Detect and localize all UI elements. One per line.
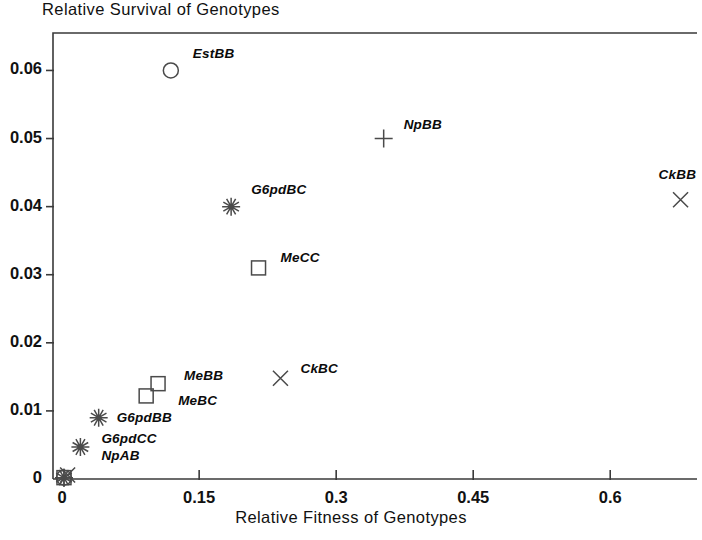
x-axis-title: Relative Fitness of Genotypes	[0, 508, 702, 527]
marker-cross	[273, 371, 288, 386]
x-tick-label: 0.6	[570, 488, 650, 507]
point-label-npbb: NpBB	[404, 117, 442, 132]
marker-asterisk	[71, 438, 89, 456]
point-label-mecc: MeCC	[281, 250, 320, 265]
x-tick-label: 0	[22, 488, 102, 507]
y-tick-label: 0.03	[10, 264, 42, 283]
x-tick-label: 0.45	[433, 488, 513, 507]
marker-circle	[163, 63, 178, 78]
y-tick-label: 0.02	[10, 332, 42, 351]
point-label-estbb: EstBB	[193, 46, 235, 61]
point-label-g6pdcc: G6pdCC	[101, 431, 156, 446]
point-label-ckbb: CkBB	[659, 167, 697, 182]
x-tick-label: 0.15	[159, 488, 239, 507]
y-tick-label: 0.05	[10, 128, 42, 147]
y-tick-label: 0.01	[10, 400, 42, 419]
point-label-g6pdbc: G6pdBC	[251, 182, 306, 197]
point-label-mebc: MeBC	[178, 393, 217, 408]
y-tick-label: 0.04	[10, 196, 42, 215]
figure-container: Relative Survival of Genotypes 00.010.02…	[0, 0, 702, 540]
point-label-g6pdbb: G6pdBB	[117, 410, 172, 425]
marker-cross	[673, 192, 688, 207]
marker-asterisk	[222, 198, 240, 216]
marker-plus	[375, 130, 393, 148]
y-tick-label: 0.06	[10, 59, 42, 78]
point-label-ckbc: CkBC	[300, 361, 338, 376]
point-label-npab: NpAB	[101, 448, 139, 463]
point-label-mebb: MeBB	[184, 368, 223, 383]
y-tick-label: 0	[33, 468, 42, 487]
marker-asterisk	[90, 409, 108, 427]
x-tick-label: 0.3	[296, 488, 376, 507]
marker-square	[252, 261, 266, 275]
